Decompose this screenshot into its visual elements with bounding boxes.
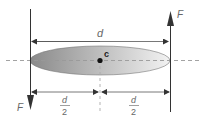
force-top-arrow-icon [167, 11, 174, 26]
label-force-top: F [177, 9, 184, 20]
label-half-right-denominator: 2 [131, 107, 136, 117]
force-bottom-arrow-icon [27, 95, 34, 110]
couple-diagram: c d F F d 2 d 2 [0, 0, 204, 127]
label-half-right-numerator: d [131, 95, 137, 105]
label-half-left-denominator: 2 [62, 107, 67, 117]
label-force-bottom: F [17, 102, 24, 113]
label-half-left-numerator: d [62, 95, 68, 105]
label-distance-d: d [97, 27, 104, 39]
label-center: c [104, 49, 109, 59]
center-point [97, 58, 102, 63]
